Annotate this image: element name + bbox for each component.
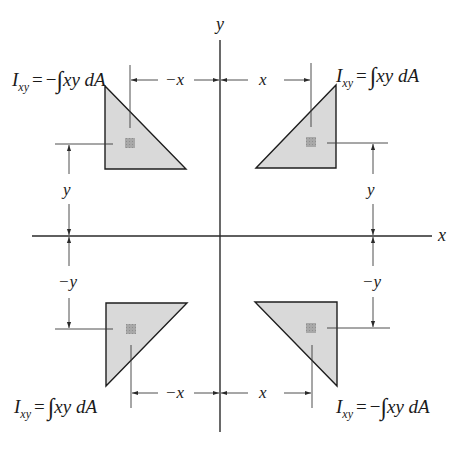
dimension-label-top-right: x (257, 71, 269, 88)
formula-integrand: xy dA (387, 396, 430, 417)
formula-sign: − (370, 396, 381, 417)
coordinate-axes (32, 40, 432, 432)
x-axis-label: x (436, 226, 448, 244)
dimension-label-right-lower: −y (360, 273, 383, 290)
formula-sign: − (46, 69, 57, 90)
formula-bottom-left: Ixy=∫xy dA (14, 393, 97, 417)
formula-bottom-right: Ixy=−∫xy dA (336, 393, 430, 417)
triangle-top-right (256, 85, 336, 168)
formula-subscript: xy (342, 407, 353, 421)
area-element-bottom-left (126, 324, 136, 334)
triangle-bottom-right (255, 302, 337, 386)
formula-equals: = (34, 396, 45, 417)
dimension-label-right-upper: y (365, 181, 377, 198)
dimension-label-top-left: −x (163, 71, 186, 88)
formula-integrand: xy dA (63, 69, 106, 90)
y-axis-label: y (214, 15, 226, 33)
dimension-label-left-upper: y (61, 181, 73, 198)
dimension-label-bottom-right: x (257, 384, 269, 401)
formula-equals: = (32, 69, 43, 90)
integral-icon: ∫ (56, 67, 63, 93)
formula-equals: = (356, 65, 367, 86)
formula-subscript: xy (20, 407, 31, 421)
formula-integrand: xy dA (376, 65, 419, 86)
integral-icon: ∫ (370, 63, 377, 89)
diagram-canvas: y x −x x −x x y −y y −y Ixy=−∫xy dA Ixy=… (0, 0, 460, 465)
triangle-top-left (105, 86, 186, 169)
dimension-label-bottom-left: −x (163, 384, 186, 401)
formula-top-right: Ixy=∫xy dA (336, 62, 419, 86)
integral-icon: ∫ (380, 394, 387, 420)
formula-top-left: Ixy=−∫xy dA (12, 66, 106, 90)
formula-integrand: xy dA (54, 396, 97, 417)
formula-subscript: xy (18, 80, 29, 94)
formula-equals: = (356, 396, 367, 417)
area-element-bottom-right (306, 323, 316, 333)
dimension-label-left-lower: −y (56, 273, 79, 290)
integral-icon: ∫ (48, 394, 55, 420)
triangle-bottom-left (106, 303, 187, 386)
formula-subscript: xy (342, 76, 353, 90)
area-element-top-left (125, 138, 135, 148)
area-element-top-right (306, 137, 316, 147)
